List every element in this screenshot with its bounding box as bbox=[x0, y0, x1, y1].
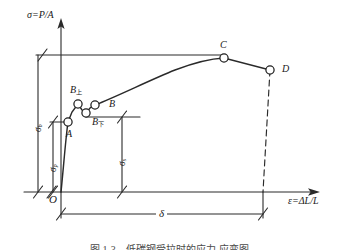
stress-strain-plot bbox=[0, 0, 342, 251]
point-label-B-lower: B下 bbox=[92, 117, 104, 127]
y-axis-label-expr: =P/A bbox=[32, 9, 54, 20]
point-marker-D bbox=[266, 66, 274, 74]
y-axis-label: σ=P/A bbox=[27, 10, 54, 20]
sigma-s-symbol: σ bbox=[117, 161, 127, 166]
dimension-label-sigma-b: σb bbox=[34, 124, 44, 132]
figure-caption: 图 1-3 低碳钢受拉时的应力-应变图 bbox=[90, 241, 249, 250]
point-marker-A bbox=[64, 118, 72, 126]
x-axis-label: ε=ΔL/L bbox=[288, 196, 318, 206]
sigma-b-subscript: b bbox=[37, 124, 43, 127]
sigma-p-subscript: p bbox=[52, 164, 58, 167]
fracture-dashed-line bbox=[263, 70, 270, 192]
point-marker-B bbox=[91, 101, 99, 109]
point-marker-C bbox=[220, 54, 228, 62]
point-label-B: B bbox=[109, 99, 115, 109]
dimension-label-sigma-s: σs bbox=[118, 159, 128, 166]
point-marker-B-lower bbox=[82, 109, 90, 117]
x-axis-label-expr: =ΔL/L bbox=[292, 195, 319, 206]
point-label-B-upper: B上 bbox=[70, 85, 82, 95]
dimension-label-sigma-p: σp bbox=[49, 164, 59, 172]
sigma-p-symbol: σ bbox=[48, 167, 58, 172]
point-marker-B-upper bbox=[74, 100, 82, 108]
point-label-B-upper-subscript: 上 bbox=[76, 88, 82, 95]
dimension-label-delta: δ bbox=[156, 208, 167, 219]
point-label-D: D bbox=[282, 64, 289, 74]
point-label-B-lower-subscript: 下 bbox=[98, 120, 104, 127]
sigma-s-subscript: s bbox=[121, 159, 127, 161]
figure-canvas: σ=P/A ε=ΔL/L O A B上 B下 B C D σb σp σs δ … bbox=[0, 0, 342, 251]
sigma-b-symbol: σ bbox=[33, 127, 43, 132]
point-label-A: A bbox=[66, 129, 72, 139]
origin-label: O bbox=[49, 194, 57, 205]
point-label-C: C bbox=[220, 40, 227, 50]
